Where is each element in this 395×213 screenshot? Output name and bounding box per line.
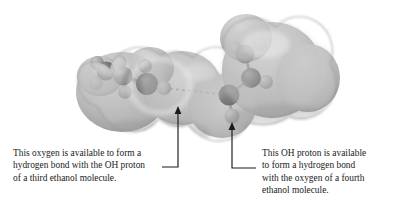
highlight-right bbox=[242, 30, 290, 58]
caption-line: This OH proton is available bbox=[262, 147, 366, 159]
molecule-figure bbox=[0, 0, 395, 150]
caption-line: with the oxygen of a fourth bbox=[262, 172, 366, 184]
caption-line: of a third ethanol molecule. bbox=[13, 172, 145, 184]
shadow-bottom-right bbox=[228, 104, 332, 136]
caption-line: hydrogen bond with the OH proton bbox=[13, 159, 145, 171]
figure-root: This oxygen is available to form a hydro… bbox=[0, 0, 395, 213]
caption-line: This oxygen is available to form a bbox=[13, 147, 145, 159]
right-annotation-caption: This OH proton is available to form a hy… bbox=[262, 147, 366, 197]
caption-line: to form a hydrogen bond bbox=[262, 159, 366, 171]
caption-line: ethanol molecule. bbox=[262, 184, 366, 196]
highlight-middle bbox=[184, 63, 216, 81]
left-annotation-caption: This oxygen is available to form a hydro… bbox=[13, 147, 145, 184]
molecule-svg bbox=[0, 0, 395, 150]
